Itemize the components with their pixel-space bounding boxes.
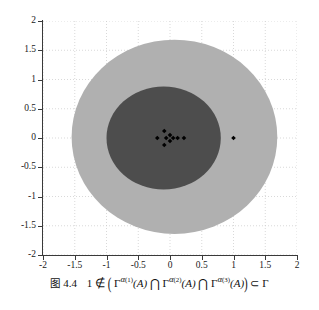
scatter-plot-canvas — [43, 21, 297, 255]
y-tick-mark — [38, 167, 43, 168]
superscript-1: (1) — [125, 276, 133, 283]
y-tick-label: -1.5 — [4, 221, 36, 231]
intersection-symbol-2: ⋂ — [198, 277, 208, 291]
y-tick-mark — [38, 197, 43, 198]
y-tick-label: -2 — [4, 250, 36, 260]
subset-symbol: ⊂ — [250, 277, 259, 289]
superscript-3: (3) — [222, 276, 230, 283]
y-tick-label: 0.5 — [4, 104, 36, 114]
figure-caption: 图 4.4 1 ∉ ( Γα(1)(A) ⋂ Γα(2)(A) ⋂ Γα(3)(… — [0, 276, 319, 290]
arg-a-2: (A) — [182, 277, 196, 289]
superscript-2: (2) — [174, 276, 182, 283]
y-tick-mark — [38, 109, 43, 110]
y-tick-label: 2 — [4, 16, 36, 26]
not-element-of-symbol: ∉ — [95, 277, 105, 289]
x-tick-label: 2 — [277, 261, 317, 271]
arg-a-1: (A) — [133, 277, 147, 289]
caption-left-paren: ( — [108, 272, 112, 294]
y-tick-label: -0.5 — [4, 162, 36, 172]
caption-one: 1 — [87, 277, 93, 289]
intersection-symbol-1: ⋂ — [150, 277, 160, 291]
y-tick-mark — [38, 138, 43, 139]
caption-right-paren: ) — [244, 272, 248, 294]
caption-label: 图 — [50, 277, 60, 289]
figure-4-4: 21.510.50-0.5-1-1.5-2 -2-1.5-1-0.500.511… — [0, 0, 319, 310]
gamma-final: Γ — [262, 277, 268, 289]
region-intersection-of-Gamma-alpha — [107, 87, 221, 190]
y-tick-mark — [38, 80, 43, 81]
y-tick-mark — [38, 21, 43, 22]
y-tick-mark — [38, 226, 43, 227]
y-tick-label: 0 — [4, 133, 36, 143]
y-tick-label: 1.5 — [4, 45, 36, 55]
y-tick-label: -1 — [4, 192, 36, 202]
arg-a-3: (A) — [230, 277, 244, 289]
caption-math: 1 ∉ ( Γα(1)(A) ⋂ Γα(2)(A) ⋂ Γα(3)(A)) ⊂ … — [87, 277, 269, 289]
caption-number: 4.4 — [63, 277, 77, 289]
y-tick-label: 1 — [4, 75, 36, 85]
plot-area — [43, 21, 297, 255]
y-tick-mark — [38, 50, 43, 51]
